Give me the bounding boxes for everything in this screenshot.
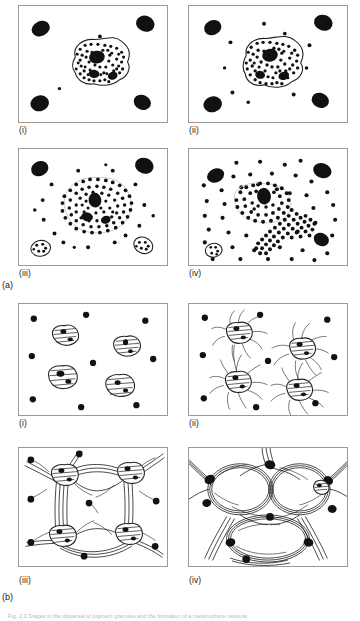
corner-cell-striped-right xyxy=(131,234,156,257)
panel-label-b-i: (i) xyxy=(19,419,27,428)
panel-label-b-iv: (iv) xyxy=(189,576,201,585)
cell-body-4 xyxy=(106,374,135,396)
panel-b-i[interactable] xyxy=(18,303,168,416)
cell-body-3 xyxy=(49,365,78,388)
panel-label-b-ii: (ii) xyxy=(189,419,199,428)
cell-body-2 xyxy=(114,336,141,356)
panel-b-iv-drawing xyxy=(189,448,347,566)
panel-b-iii[interactable] xyxy=(18,447,168,567)
cell-body-3-with-processes xyxy=(210,355,267,409)
panel-label-a-i: (i) xyxy=(19,126,27,135)
group-label-a: (a) xyxy=(2,281,13,290)
panel-a-iv[interactable] xyxy=(188,148,348,266)
corner-cell-striped-left xyxy=(204,242,223,258)
granule-stream xyxy=(254,208,316,255)
figure-root: (i) xyxy=(0,0,360,621)
panel-b-ii[interactable] xyxy=(188,303,348,416)
group-label-b: (b) xyxy=(2,593,13,602)
panel-a-ii-drawing xyxy=(189,6,347,122)
panel-a-ii[interactable] xyxy=(188,5,348,123)
node-cell-4 xyxy=(116,523,143,544)
panel-group-a: (i) xyxy=(0,0,360,292)
panel-label-a-iii: (iii) xyxy=(19,269,31,278)
node-cell-3 xyxy=(49,525,76,546)
panel-b-ii-drawing xyxy=(189,304,347,415)
corner-cell-striped-left xyxy=(30,239,52,258)
mesh-nodes xyxy=(202,459,338,563)
figure-caption: Fig. 2.3 Stages in the dispersal of pigm… xyxy=(8,613,356,620)
panel-b-iii-drawing xyxy=(19,448,167,566)
panel-label-a-ii: (ii) xyxy=(189,126,199,135)
node-cell-2 xyxy=(118,462,145,483)
panel-a-iii[interactable] xyxy=(18,148,168,266)
panel-a-iii-drawing xyxy=(19,149,167,265)
panel-label-b-iii: (iii) xyxy=(19,576,31,585)
panel-label-a-iv: (iv) xyxy=(189,269,201,278)
cell-body-4-with-processes xyxy=(271,363,328,415)
panel-group-b: (i) xyxy=(0,295,360,615)
cell-body-1 xyxy=(52,325,78,345)
panel-b-iv[interactable] xyxy=(188,447,348,567)
cell-body-2-with-processes xyxy=(272,323,328,379)
connecting-process xyxy=(234,345,237,371)
panel-a-i[interactable] xyxy=(18,5,168,123)
panel-b-i-drawing xyxy=(19,304,167,415)
panel-a-iv-drawing xyxy=(189,149,347,265)
panel-a-i-drawing xyxy=(19,6,167,122)
node-cell-1 xyxy=(51,464,78,485)
